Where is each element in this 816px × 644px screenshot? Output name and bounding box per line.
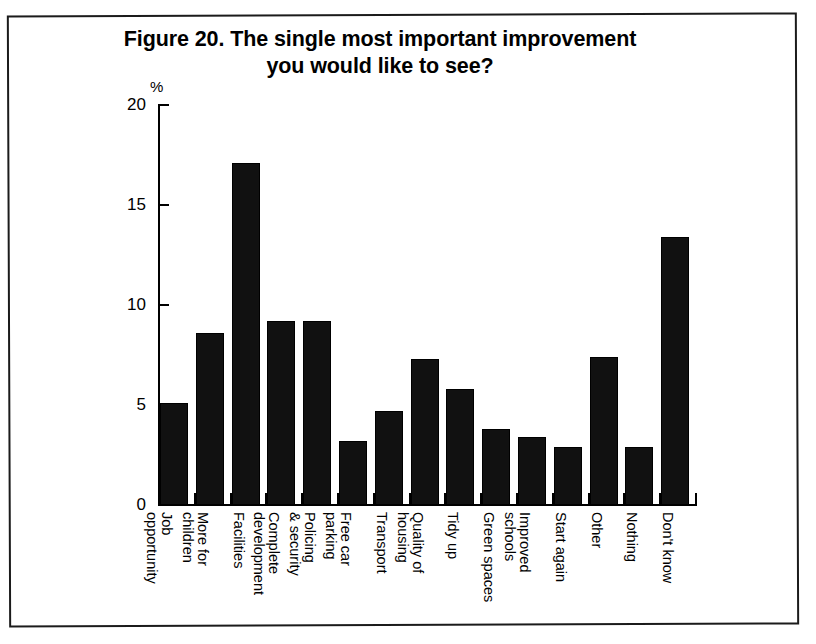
bar [661,237,689,505]
x-axis-category-label: Transport [374,512,389,622]
y-axis-unit-label: % [150,78,163,95]
x-axis-category-label-line: Transport [374,512,389,622]
x-axis-category-label-line: More for [195,512,210,622]
bar [625,447,653,505]
bar [554,447,582,505]
bar [160,403,188,505]
x-axis-tick [695,493,697,506]
bar [303,321,331,505]
plot-area [158,105,695,505]
x-axis-category-label-line: housing [395,512,410,622]
chart-title-line-1: Figure 20. The single most important imp… [60,26,700,53]
x-axis-category-label: Start again [553,512,568,622]
x-axis-category-label-line: Quality of [410,512,425,622]
x-axis-category-label: Don't know [660,512,675,622]
x-axis-category-label-line: Nothing [624,512,639,622]
x-axis-category-label: Nothing [624,512,639,622]
chart-title: Figure 20. The single most important imp… [60,26,700,80]
x-axis-category-label: Jobopportunity [144,512,174,622]
bar [590,357,618,505]
x-axis-category-label-line: opportunity [144,512,159,622]
bar [267,321,295,505]
bar-chart: Figure 20. The single most important imp… [0,0,816,644]
x-axis-category-label-line: Tidy up [445,512,460,622]
bar [339,441,367,505]
x-axis-category-label-line: children [180,512,195,622]
x-axis-category-label-line: Facilities [231,512,246,622]
bar [375,411,403,505]
y-axis-tick-label: 15 [110,196,146,213]
x-axis-category-label: Free carparking [323,512,353,622]
x-axis-category-label-line: Policing [302,512,317,622]
x-axis-category-label: Other [589,512,604,622]
bar [232,163,260,505]
x-axis-category-label: Green spaces [481,512,496,622]
x-axis-category-label-line: parking [323,512,338,622]
figure-container: Figure 20. The single most important imp… [0,0,816,644]
x-axis-category-label-line: Free car [338,512,353,622]
x-axis-category-label-line: Green spaces [481,512,496,622]
bar [482,429,510,505]
y-axis-tick-label: 5 [110,396,146,413]
x-axis-category-label-line: Other [589,512,604,622]
chart-title-line-2: you would like to see? [60,53,700,80]
bar [411,359,439,505]
x-axis-category-label-line: & security [287,512,302,622]
x-axis-category-label: Quality ofhousing [395,512,425,622]
x-axis-category-label-line: Start again [553,512,568,622]
y-axis-tick-label: 10 [110,296,146,313]
x-axis-category-label-line: schools [502,512,517,622]
x-axis-category-label: Facilities [231,512,246,622]
x-axis-category-label: Tidy up [445,512,460,622]
x-axis-category-label: Policing& security [287,512,317,622]
x-axis-category-label: Improvedschools [502,512,532,622]
x-axis-category-label: More forchildren [180,512,210,622]
y-axis-tick-label: 20 [110,96,146,113]
x-axis-category-label: Completedevelopment [251,512,281,622]
x-axis-category-label-line: Job [159,512,174,622]
bar [518,437,546,505]
bar [196,333,224,505]
x-axis-category-label-line: Complete [266,512,281,622]
x-axis-category-label-line: development [251,512,266,622]
x-axis-category-label-line: Don't know [660,512,675,622]
y-axis-tick-label: 0 [110,496,146,513]
x-axis-category-label-line: Improved [517,512,532,622]
bar [446,389,474,505]
